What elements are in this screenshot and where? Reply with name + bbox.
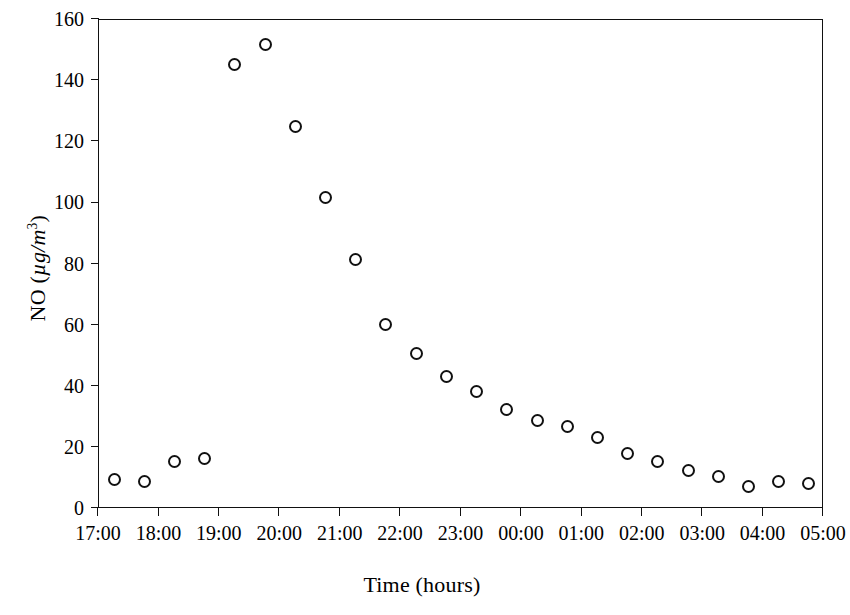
data-point-marker bbox=[621, 447, 634, 460]
y-axis-tick-label: 160 bbox=[24, 9, 84, 29]
plot-area bbox=[98, 19, 823, 508]
y-axis-tick bbox=[91, 140, 99, 141]
x-axis-tick-label: 05:00 bbox=[778, 523, 850, 543]
data-point-marker bbox=[561, 420, 574, 433]
data-point-marker bbox=[138, 475, 151, 488]
x-axis-tick bbox=[158, 508, 159, 516]
data-point-marker bbox=[349, 253, 362, 266]
data-point-marker bbox=[410, 347, 423, 360]
y-axis-tick bbox=[91, 18, 99, 19]
x-axis-tick bbox=[339, 508, 340, 516]
x-axis-tick bbox=[278, 508, 279, 516]
y-axis-title-open: ( bbox=[25, 276, 50, 289]
y-axis-tick bbox=[91, 202, 99, 203]
data-point-marker bbox=[802, 477, 815, 490]
x-axis-title: Time (hours) bbox=[0, 572, 844, 598]
data-point-marker bbox=[712, 470, 725, 483]
data-point-marker bbox=[651, 455, 664, 468]
data-point-marker bbox=[289, 120, 302, 133]
x-axis-tick bbox=[641, 508, 642, 516]
x-axis-tick bbox=[460, 508, 461, 516]
x-axis-tick bbox=[399, 508, 400, 516]
y-axis-tick bbox=[91, 446, 99, 447]
data-point-marker bbox=[440, 370, 453, 383]
data-point-marker bbox=[319, 191, 332, 204]
data-point-marker bbox=[198, 452, 211, 465]
data-point-marker bbox=[742, 480, 755, 493]
data-point-marker bbox=[531, 414, 544, 427]
data-point-marker bbox=[772, 475, 785, 488]
y-axis-tick-label: 40 bbox=[24, 376, 84, 396]
y-axis-tick bbox=[91, 79, 99, 80]
x-axis-tick bbox=[701, 508, 702, 516]
x-axis-tick bbox=[218, 508, 219, 516]
y-axis-tick bbox=[91, 263, 99, 264]
y-axis-tick-label: 0 bbox=[24, 498, 84, 518]
data-point-marker bbox=[108, 473, 121, 486]
x-axis-tick bbox=[762, 508, 763, 516]
x-axis-tick bbox=[97, 508, 98, 516]
data-point-marker bbox=[500, 403, 513, 416]
y-axis-tick bbox=[91, 324, 99, 325]
y-axis-tick-label: 100 bbox=[24, 192, 84, 212]
data-point-marker bbox=[682, 464, 695, 477]
x-axis-tick bbox=[520, 508, 521, 516]
y-axis-tick-label: 120 bbox=[24, 131, 84, 151]
x-axis-tick bbox=[581, 508, 582, 516]
data-point-marker bbox=[591, 431, 604, 444]
y-axis-tick bbox=[91, 385, 99, 386]
y-axis-tick-label: 80 bbox=[24, 254, 84, 274]
data-series-layer bbox=[99, 20, 822, 507]
y-axis-tick-label: 140 bbox=[24, 70, 84, 90]
x-axis-tick bbox=[822, 508, 823, 516]
data-point-marker bbox=[228, 58, 241, 71]
y-axis-title-exponent: 3 bbox=[25, 222, 40, 229]
data-point-marker bbox=[470, 385, 483, 398]
data-point-marker bbox=[259, 38, 272, 51]
y-axis-title-close: ) bbox=[25, 215, 50, 223]
data-point-marker bbox=[379, 318, 392, 331]
data-point-marker bbox=[168, 455, 181, 468]
y-axis-tick-label: 20 bbox=[24, 437, 84, 457]
y-axis-tick-label: 60 bbox=[24, 315, 84, 335]
